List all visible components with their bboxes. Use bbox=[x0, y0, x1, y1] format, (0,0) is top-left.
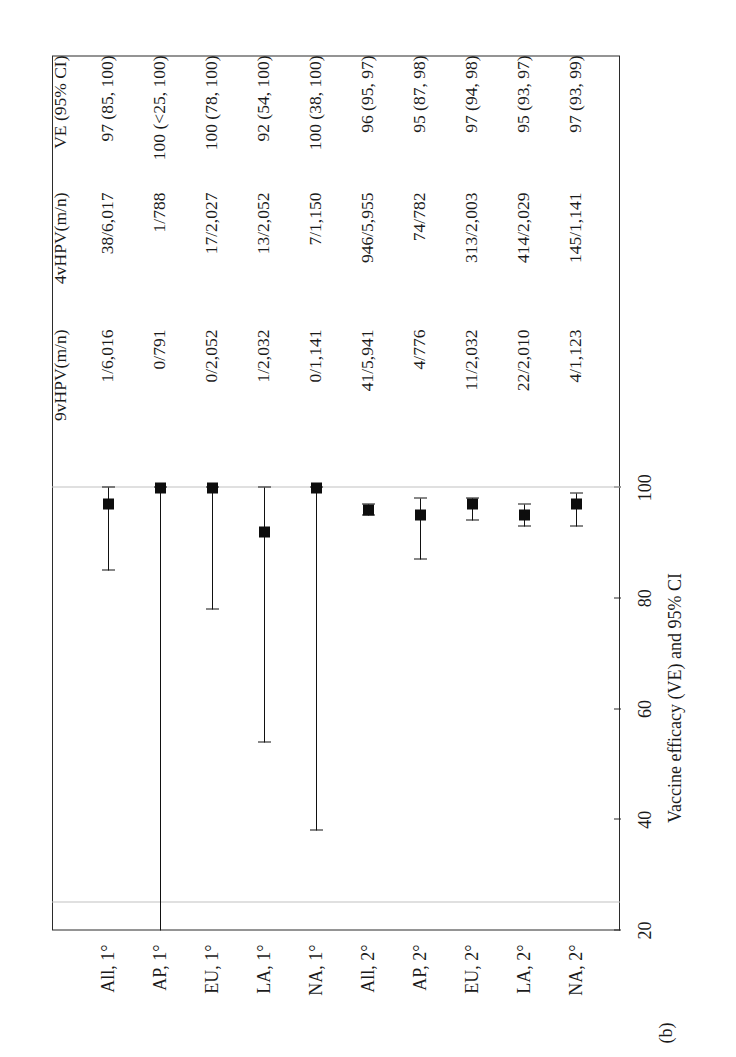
panel-label: (b) bbox=[656, 1022, 677, 1043]
column-header-4vhpv: 4vHPV(m/n) bbox=[52, 192, 70, 328]
table-cell-ve-ci: 95 (93, 97) bbox=[515, 55, 533, 191]
x-tick-label: 20 bbox=[636, 900, 654, 960]
x-tick bbox=[614, 929, 621, 930]
x-tick-label: 100 bbox=[636, 457, 654, 517]
table-cell-4vhpv: 38/6,017 bbox=[99, 192, 117, 328]
table-cell-ve-ci: 100 (<25, 100) bbox=[151, 55, 169, 191]
table-cell-4vhpv: 13/2,052 bbox=[255, 192, 273, 328]
table-cell-ve-ci: 97 (93, 99) bbox=[567, 55, 585, 191]
table-column-9vhpv: 9vHPV(m/n) 1/6,0160/7910/2,0521/2,0320/1… bbox=[52, 329, 620, 465]
confidence-interval-line bbox=[264, 487, 265, 742]
ci-cap-lower bbox=[206, 608, 219, 609]
ci-cap-upper bbox=[518, 503, 531, 504]
table-cell-9vhpv: 22/2,010 bbox=[515, 329, 533, 465]
table-cell-9vhpv: 1/2,032 bbox=[255, 329, 273, 465]
table-cell-9vhpv: 1/6,016 bbox=[99, 329, 117, 465]
table-column-4vhpv: 4vHPV(m/n) 38/6,0171/78817/2,02713/2,052… bbox=[52, 192, 620, 328]
point-estimate bbox=[415, 509, 426, 520]
table-cell-4vhpv: 1/788 bbox=[151, 192, 169, 328]
point-estimate bbox=[103, 498, 114, 509]
ci-cap-upper bbox=[570, 492, 583, 493]
table-cell-ve-ci: 97 (94, 98) bbox=[463, 55, 481, 191]
ci-cap-upper bbox=[258, 486, 271, 487]
confidence-interval-line bbox=[212, 487, 213, 609]
ci-cap-lower bbox=[466, 519, 479, 520]
category-label: EU, 2° bbox=[463, 944, 481, 1057]
point-estimate bbox=[363, 504, 374, 515]
category-label: NA, 2° bbox=[567, 944, 585, 1057]
table-cell-9vhpv: 41/5,941 bbox=[359, 329, 377, 465]
category-label: AP, 1° bbox=[151, 944, 169, 1057]
table-cell-ve-ci: 92 (54, 100) bbox=[255, 55, 273, 191]
data-table: 9vHPV(m/n) 1/6,0160/7910/2,0521/2,0320/1… bbox=[52, 55, 620, 465]
ci-cap-upper bbox=[414, 497, 427, 498]
confidence-interval-line bbox=[420, 498, 421, 559]
table-cell-4vhpv: 74/782 bbox=[411, 192, 429, 328]
table-cell-4vhpv: 946/5,955 bbox=[359, 192, 377, 328]
table-column-ve-ci: VE (95% CI) 97 (85, 100)100 (<25, 100)10… bbox=[52, 55, 620, 191]
x-tick-label: 80 bbox=[636, 568, 654, 628]
x-axis-title: Vaccine efficacy (VE) and 95% CI bbox=[665, 465, 686, 930]
point-estimate bbox=[259, 526, 270, 537]
table-cell-4vhpv: 7/1,150 bbox=[307, 192, 325, 328]
rotated-stage: 20406080100 Vaccine efficacy (VE) and 95… bbox=[0, 0, 736, 1057]
confidence-interval-line bbox=[160, 487, 161, 930]
ci-cap-lower bbox=[414, 558, 427, 559]
ci-cap-lower bbox=[518, 525, 531, 526]
ci-cap-upper bbox=[102, 486, 115, 487]
table-cell-9vhpv: 4/776 bbox=[411, 329, 429, 465]
column-header-ve-ci: VE (95% CI) bbox=[52, 55, 70, 191]
x-tick bbox=[614, 708, 621, 709]
x-tick-label: 40 bbox=[636, 789, 654, 849]
table-cell-9vhpv: 11/2,032 bbox=[463, 329, 481, 465]
table-cell-4vhpv: 313/2,003 bbox=[463, 192, 481, 328]
ci-cap-lower bbox=[570, 525, 583, 526]
table-cell-4vhpv: 414/2,029 bbox=[515, 192, 533, 328]
table-cell-9vhpv: 0/2,052 bbox=[203, 329, 221, 465]
table-cell-ve-ci: 100 (38, 100) bbox=[307, 55, 325, 191]
table-cell-ve-ci: 100 (78, 100) bbox=[203, 55, 221, 191]
reference-line bbox=[52, 901, 620, 902]
category-label: EU, 1° bbox=[203, 944, 221, 1057]
table-cell-4vhpv: 17/2,027 bbox=[203, 192, 221, 328]
category-labels: All, 1°AP, 1°EU, 1°LA, 1°NA, 1°All, 2°AP… bbox=[52, 932, 620, 1057]
ci-cap-lower bbox=[102, 569, 115, 570]
point-estimate bbox=[571, 498, 582, 509]
category-label: All, 2° bbox=[359, 944, 377, 1057]
table-cell-ve-ci: 97 (85, 100) bbox=[99, 55, 117, 191]
point-estimate bbox=[311, 482, 322, 493]
x-tick bbox=[614, 597, 621, 598]
category-label: All, 1° bbox=[99, 944, 117, 1057]
category-label: AP, 2° bbox=[411, 944, 429, 1057]
ci-cap-lower bbox=[310, 829, 323, 830]
point-estimate bbox=[155, 482, 166, 493]
column-header-9vhpv: 9vHPV(m/n) bbox=[52, 329, 70, 465]
x-tick bbox=[614, 818, 621, 819]
point-estimate bbox=[207, 482, 218, 493]
point-estimate bbox=[467, 498, 478, 509]
x-tick-label: 60 bbox=[636, 679, 654, 739]
table-cell-4vhpv: 145/1,141 bbox=[567, 192, 585, 328]
plot-area: 20406080100 Vaccine efficacy (VE) and 95… bbox=[52, 465, 620, 930]
category-label: LA, 2° bbox=[515, 944, 533, 1057]
table-cell-9vhpv: 0/791 bbox=[151, 329, 169, 465]
x-axis-line bbox=[619, 465, 620, 930]
forest-plot-figure: 20406080100 Vaccine efficacy (VE) and 95… bbox=[0, 0, 736, 1057]
point-estimate bbox=[519, 509, 530, 520]
category-label: LA, 1° bbox=[255, 944, 273, 1057]
reference-line bbox=[52, 486, 620, 487]
ci-cap-lower bbox=[258, 741, 271, 742]
category-label: NA, 1° bbox=[307, 944, 325, 1057]
table-cell-ve-ci: 95 (87, 98) bbox=[411, 55, 429, 191]
table-cell-ve-ci: 96 (95, 97) bbox=[359, 55, 377, 191]
table-cell-9vhpv: 4/1,123 bbox=[567, 329, 585, 465]
table-cell-9vhpv: 0/1,141 bbox=[307, 329, 325, 465]
confidence-interval-line bbox=[316, 487, 317, 830]
